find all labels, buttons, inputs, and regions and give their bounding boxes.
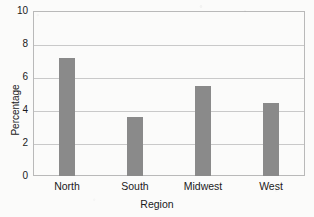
x-axis-tick-label-midwest: Midwest xyxy=(184,180,223,192)
bar-west xyxy=(263,103,279,176)
y-axis-tick-value: 2 xyxy=(22,138,28,148)
y-axis-tick-value: 8 xyxy=(22,39,28,49)
y-axis-title: Percentage xyxy=(0,0,9,50)
bar-midwest xyxy=(195,86,211,176)
bar-chart-figure: Percentage 0246810 NorthSouthMidwestWest… xyxy=(0,0,314,217)
x-axis-tick-label-north: North xyxy=(54,180,80,192)
x-axis-title-label: Region xyxy=(140,198,173,210)
y-axis-tick-value: 6 xyxy=(22,72,28,82)
gridline xyxy=(34,45,304,46)
bar-north xyxy=(59,58,75,176)
x-axis-tick-label-west: West xyxy=(259,180,283,192)
y-axis-tick-value: 4 xyxy=(22,105,28,115)
bar-south xyxy=(127,117,143,176)
y-axis-tick-value: 0 xyxy=(22,171,28,181)
y-axis-tick-value: 10 xyxy=(17,6,28,16)
y-axis-title-label: Percentage xyxy=(10,50,21,170)
x-axis-title: Region xyxy=(0,198,314,210)
x-axis-tick-label-south: South xyxy=(121,180,148,192)
